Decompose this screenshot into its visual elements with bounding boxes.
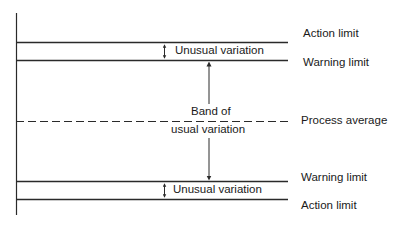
label-action-limit-top: Action limit: [303, 28, 359, 40]
label-warning-limit-top: Warning limit: [303, 57, 369, 69]
label-band-of: Band of: [190, 106, 232, 118]
label-unusual-variation-top: Unusual variation: [175, 45, 264, 57]
label-unusual-variation-bottom: Unusual variation: [173, 184, 262, 196]
label-warning-limit-bottom: Warning limit: [301, 172, 367, 184]
label-usual-variation: usual variation: [171, 124, 245, 136]
label-action-limit-bottom: Action limit: [301, 200, 357, 212]
label-process-average: Process average: [301, 115, 387, 127]
